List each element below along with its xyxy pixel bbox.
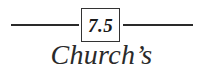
left-rule-divider [11,24,79,26]
right-rule-divider [123,24,193,26]
section-number: 7.5 [88,16,113,35]
section-number-box: 7.5 [81,8,120,42]
section-title: Church’s Theorem [0,41,203,71]
